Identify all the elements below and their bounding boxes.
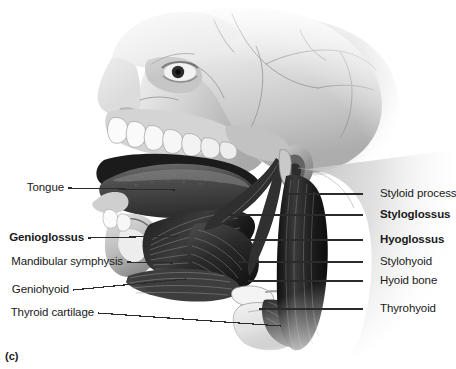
label-tongue: Tongue [0,182,64,194]
label-styloglossus: Styloglossus [380,209,450,221]
label-thyrohyoid: Thyrohyoid [380,303,436,315]
label-stylohyoid: Stylohyoid [380,256,432,268]
label-styloid-process: Styloid process [380,188,456,200]
figure-caption: (c) [5,350,18,362]
label-geniohyoid: Geniohyoid [0,284,69,296]
label-genioglossus: Genioglossus [0,232,84,244]
label-hyoid-bone: Hyoid bone [380,275,437,287]
label-hyoglossus: Hyoglossus [380,234,444,246]
label-mandibular-symphysis: Mandibular symphysis [0,256,123,268]
label-thyroid-cartilage: Thyroid cartilage [0,307,94,319]
